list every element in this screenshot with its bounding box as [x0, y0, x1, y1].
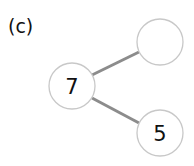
node-top-right — [137, 19, 183, 65]
node-root: 7 — [49, 63, 95, 109]
node-root-label: 7 — [65, 75, 78, 99]
edge-root-top-right — [92, 52, 139, 75]
tree-graph: 7 5 — [0, 0, 194, 166]
tree-diagram: (c) 7 5 — [0, 0, 194, 166]
node-bottom-right-label: 5 — [153, 122, 166, 146]
edge-root-bottom-right — [92, 98, 139, 123]
node-bottom-right: 5 — [137, 110, 183, 156]
